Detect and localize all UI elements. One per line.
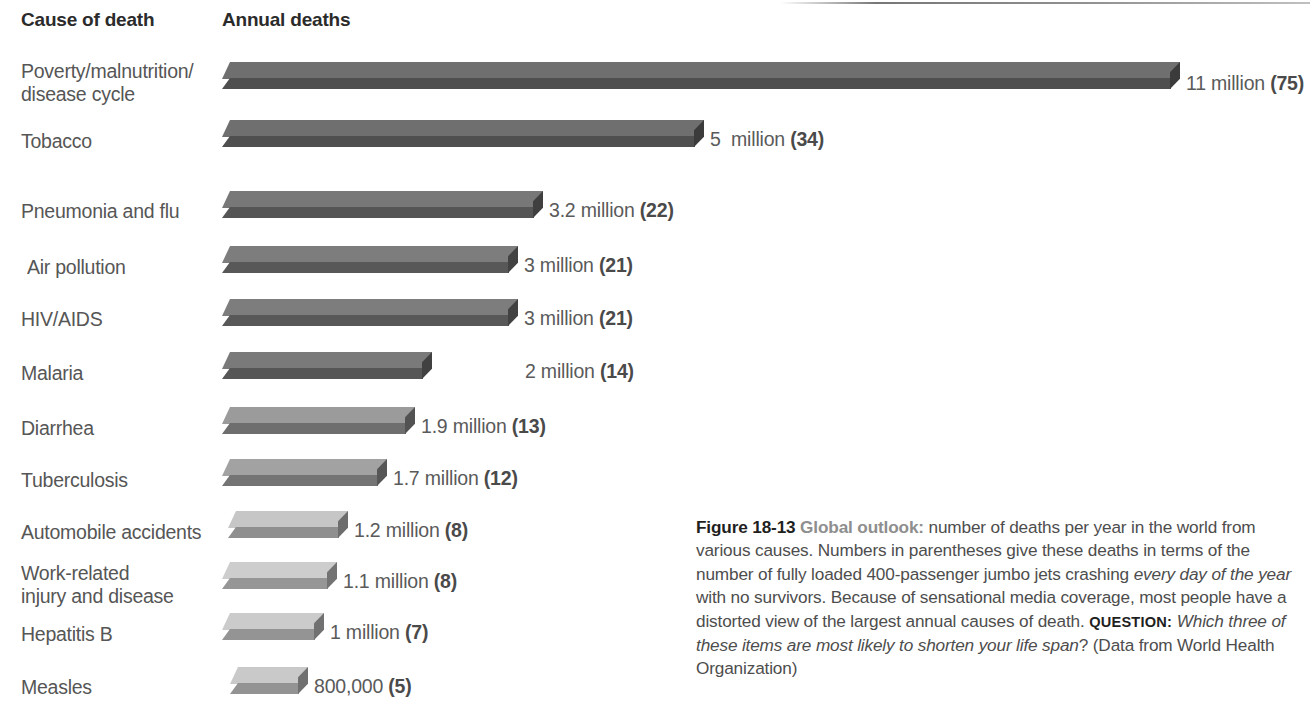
bar-front-face [222,78,1171,89]
bar-front-face [222,262,509,273]
bar [222,120,704,147]
bar-value-label: 11 million (75) [1186,72,1304,94]
bar-front-face [222,629,315,640]
row-label: Work-related injury and disease [21,562,174,608]
bar-value-label: 1.2 million (8) [354,519,468,541]
bar-value-jet-equivalent: (75) [1270,72,1304,94]
bar [222,299,518,326]
bar [228,511,348,538]
bar-value-jet-equivalent: (7) [405,621,428,643]
bar-top-face [222,562,337,579]
bar-value-jet-equivalent: (14) [600,360,634,382]
bar-value-number: 1 million [330,621,405,643]
bar-front-face [222,207,534,218]
bar [222,407,415,434]
caption-question-label: QUESTION: [1089,614,1172,630]
bar-value-label: 1.1 million (8) [343,570,457,592]
caption-italic-1: every day of the year [1134,564,1291,584]
caption-lead-in: Global outlook: [800,517,924,537]
bar-value-jet-equivalent: (12) [484,467,518,489]
bar-top-face [230,667,308,684]
bar-value-number: 11 million [1186,72,1270,94]
bar-value-label: 3.2 million (22) [549,199,674,221]
bar-front-face [222,475,378,486]
bar-front-face [228,527,339,538]
bar-top-face [222,246,518,263]
bar-top-face [222,352,432,369]
bar-value-number: 1.2 million [354,519,445,541]
bar-value-jet-equivalent: (8) [434,570,457,592]
bar-value-number: 2 million [525,360,600,382]
bar-front-face [222,578,328,589]
bar-value-number: 1.9 million [421,415,512,437]
bar-top-face [222,299,518,316]
bar-value-label: 2 million (14) [525,360,634,382]
row-label: HIV/AIDS [21,308,102,331]
bar-value-jet-equivalent: (22) [640,199,674,221]
bar-front-face [230,683,299,694]
bar-value-label: 1.7 million (12) [393,467,518,489]
bar-value-number: 3 million [524,254,599,276]
bar [230,667,308,694]
column-header-annual-deaths: Annual deaths [222,9,350,31]
bar [222,191,543,218]
bar-value-label: 3 million (21) [524,307,633,329]
bar-top-face [222,613,324,630]
bar-front-face [222,315,509,326]
bar-value-label: 1.9 million (13) [421,415,546,437]
row-label: Malaria [21,362,83,385]
bar-value-jet-equivalent: (21) [599,307,633,329]
bar-chart: Cause of death Annual deaths Poverty/mal… [0,0,700,715]
row-label: Poverty/malnutrition/ disease cycle [21,60,194,106]
row-label: Hepatitis B [21,623,113,646]
bar [222,62,1180,89]
bar-value-jet-equivalent: (5) [388,675,411,697]
bar-top-face [222,62,1180,79]
bar-top-face [228,511,348,528]
row-label: Air pollution [27,256,126,279]
bar-value-label: 5 million (34) [710,128,824,150]
row-label: Diarrhea [21,417,94,440]
bar-top-face [222,191,543,208]
figure-caption: Figure 18-13 Global outlook: number of d… [696,516,1310,681]
bar-top-face [222,459,387,476]
bar-value-number: 3 million [524,307,599,329]
bar-value-number: 5 million [710,128,790,150]
bar-value-number: 800,000 [314,675,388,697]
bar [222,246,518,273]
bar-value-number: 1.7 million [393,467,484,489]
bar [222,459,387,486]
bar-value-label: 3 million (21) [524,254,633,276]
row-label: Tuberculosis [21,469,128,492]
bar [222,352,432,379]
row-label: Tobacco [21,130,92,153]
row-label: Measles [21,676,92,699]
bar-front-face [222,423,406,434]
bar-top-face [222,407,415,424]
figure-number: Figure 18-13 [696,517,795,537]
bar-value-label: 800,000 (5) [314,675,412,697]
bar-front-face [222,368,423,379]
scan-artifact-line [780,2,1310,4]
row-label: Automobile accidents [21,521,201,544]
bar [222,562,337,589]
bar [222,613,324,640]
bar-value-jet-equivalent: (21) [599,254,633,276]
column-header-cause-of-death: Cause of death [21,9,154,31]
bar-value-jet-equivalent: (8) [445,519,468,541]
bar-value-label: 1 million (7) [330,621,428,643]
bar-value-jet-equivalent: (34) [790,128,824,150]
bar-top-face [222,120,704,137]
row-label: Pneumonia and flu [21,200,179,223]
bar-value-number: 1.1 million [343,570,434,592]
bar-front-face [222,136,695,147]
bar-value-jet-equivalent: (13) [512,415,546,437]
bar-value-number: 3.2 million [549,199,640,221]
